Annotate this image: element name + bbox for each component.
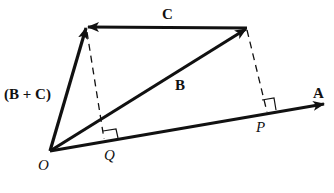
vector-a — [50, 104, 324, 151]
right-angle-marker-p — [262, 98, 276, 110]
vector-c — [88, 27, 247, 28]
label-q: Q — [104, 147, 115, 163]
right-angle-marker-q — [103, 129, 118, 138]
label-c: C — [162, 6, 173, 22]
label-o: O — [38, 157, 49, 173]
label-b: B — [175, 77, 185, 93]
label-b-plus-c: (B + C) — [4, 86, 51, 103]
vector-diagram: C B (B + C) A O Q P — [0, 0, 334, 193]
label-a: A — [313, 85, 324, 101]
label-p: P — [255, 119, 265, 135]
